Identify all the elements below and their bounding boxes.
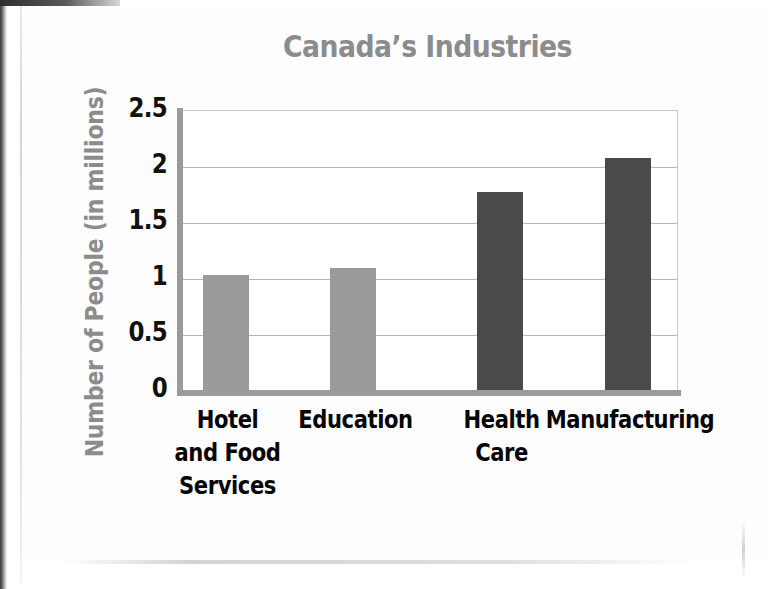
bar-3[interactable] [605, 158, 651, 390]
x-category-label: Education [287, 404, 423, 437]
chart-title: Canada’s Industries [212, 28, 643, 64]
scan-edge-top [0, 0, 120, 6]
bar-1[interactable] [330, 268, 376, 390]
x-category-label: Hoteland FoodServices [159, 404, 295, 503]
x-category-label-line: Manufacturing [542, 404, 718, 437]
x-category-label-line: Hotel [159, 404, 295, 437]
y-tick-label: 0 [106, 372, 167, 403]
x-category-label-line: Education [287, 404, 423, 437]
x-axis-line [177, 390, 681, 396]
x-category-label-line: and Food [159, 437, 295, 470]
x-category-label-line: Services [159, 470, 295, 503]
plot-area [177, 110, 678, 390]
scan-edge-left [0, 0, 7, 589]
scan-right-artifact [742, 520, 745, 580]
y-tick-label: 1.5 [106, 204, 167, 235]
x-category-label: Manufacturing [542, 404, 718, 437]
gridline [177, 279, 677, 280]
bar-0[interactable] [203, 275, 249, 390]
gridline [177, 335, 677, 336]
y-tick-label: 2.5 [106, 92, 167, 123]
x-category-label-line: Care [433, 437, 569, 470]
scan-bottom-artifact [60, 560, 700, 564]
y-tick-label: 0.5 [106, 316, 167, 347]
y-tick-label: 2 [106, 148, 167, 179]
gridline [177, 167, 677, 168]
bar-2[interactable] [477, 192, 523, 390]
y-tick-label: 1 [106, 260, 167, 291]
gridline [177, 223, 677, 224]
scan-edge-inner-line [20, 6, 22, 584]
y-axis-line [177, 108, 183, 396]
chart-page: Canada’s Industries Number of People (in… [0, 0, 773, 589]
y-axis-tick-labels: 00.511.522.5 [85, 110, 167, 390]
